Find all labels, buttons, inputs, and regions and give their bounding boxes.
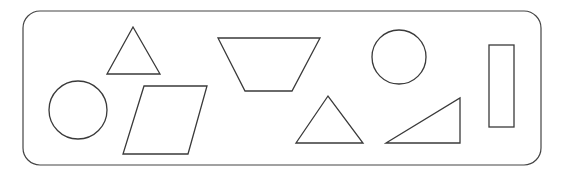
circle-left [49, 81, 107, 139]
shapes-diagram [0, 0, 561, 170]
rectangle [489, 45, 514, 127]
circle-right [372, 30, 426, 84]
